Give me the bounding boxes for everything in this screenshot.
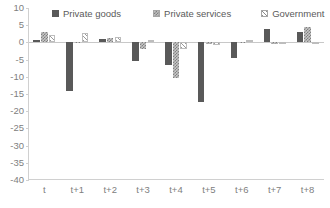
y-tick-label: 10 [13,2,24,13]
x-axis-labels: tt+1t+2t+3t+4t+5t+6t+7t+8 [28,184,324,204]
bar-government [49,35,56,43]
bar-government [115,37,122,43]
y-tick-label: -15 [10,88,24,99]
y-tick-label: -40 [10,174,24,185]
bar-government [312,42,319,44]
bar-private-services [140,42,147,48]
bar-government [213,42,220,44]
y-tick-label: -25 [10,122,24,133]
x-tick-label: t+6 [225,184,258,196]
bar-group [225,8,258,180]
bar-government [279,42,286,44]
bar-private-goods [132,42,139,60]
bar-private-services [271,42,278,43]
bar-private-services [304,27,311,42]
bar-private-goods [198,42,205,102]
bar-private-goods [297,32,304,42]
bar-group [94,8,127,180]
x-tick-label: t+1 [61,184,94,196]
bar-private-services [107,38,114,42]
bar-chart: Private goods Private services Governmen… [0,0,330,208]
y-tick-label: -35 [10,157,24,168]
y-tick-label: -20 [10,105,24,116]
bar-group [28,8,61,180]
x-tick-label: t [28,184,61,196]
x-tick-label: t+4 [160,184,193,196]
y-tick-mark [26,180,29,181]
bar-private-services [74,42,81,43]
x-tick-label: t+8 [291,184,324,196]
y-tick-label: -10 [10,71,24,82]
bar-private-goods [66,42,73,90]
bar-government [148,40,155,42]
bar-group [258,8,291,180]
bar-private-goods [264,29,271,43]
bar-private-services [239,42,246,43]
bar-private-goods [99,39,106,43]
x-tick-label: t+5 [192,184,225,196]
bars-layer [28,8,324,180]
bar-group [291,8,324,180]
bar-private-goods [33,40,40,42]
bar-group [61,8,94,180]
bar-government [180,42,187,49]
bar-private-goods [165,42,172,65]
bar-private-services [206,42,213,44]
bar-private-services [41,32,48,42]
y-tick-label: -5 [16,54,24,65]
y-tick-label: 0 [19,36,24,47]
bar-private-goods [231,42,238,58]
x-tick-label: t+2 [94,184,127,196]
y-tick-label: -30 [10,140,24,151]
bar-government [246,40,253,42]
bar-group [127,8,160,180]
bar-group [160,8,193,180]
x-tick-label: t+7 [258,184,291,196]
y-tick-label: 5 [19,19,24,30]
bar-government [82,33,89,42]
bar-group [192,8,225,180]
x-tick-label: t+3 [127,184,160,196]
bar-private-services [173,42,180,77]
